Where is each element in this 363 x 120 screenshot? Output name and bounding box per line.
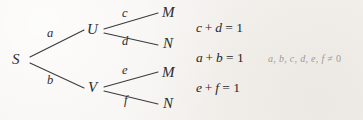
edge-s-u xyxy=(30,30,84,57)
edge-label-f: f xyxy=(124,94,127,107)
equation-a-plus-b-operator: + xyxy=(203,50,216,65)
tree-diagram-figure: S U V M N M N a b c d e f c+d=1 a+b=1 e+… xyxy=(0,0,363,120)
edge-u-n1 xyxy=(104,33,158,45)
edge-label-c: c xyxy=(122,7,128,20)
nonzero-condition-relation: ≠ xyxy=(327,53,333,64)
node-m-upper: M xyxy=(162,5,175,20)
edge-u-m1 xyxy=(104,13,158,29)
equation-a-plus-b-term2: b xyxy=(216,50,223,65)
equation-a-plus-b-equals: = xyxy=(223,50,237,65)
node-n-upper: N xyxy=(163,36,173,51)
edge-v-n2 xyxy=(104,91,158,104)
equation-c-plus-d-equals: = xyxy=(222,20,236,35)
equation-e-plus-f-operator: + xyxy=(202,80,215,95)
edge-label-d: d xyxy=(122,35,128,48)
edge-label-b: b xyxy=(47,74,53,87)
equation-c-plus-d-result: 1 xyxy=(236,20,243,35)
edge-v-m2 xyxy=(104,72,158,87)
node-s: S xyxy=(12,52,20,67)
equation-a-plus-b-result: 1 xyxy=(237,50,244,65)
nonzero-condition-variables: a, b, c, d, e, f xyxy=(268,53,324,64)
edge-label-a: a xyxy=(47,27,53,40)
edge-s-v xyxy=(30,63,84,88)
edge-label-e: e xyxy=(122,64,128,77)
equation-e-plus-f-result: 1 xyxy=(233,80,240,95)
node-m-lower: M xyxy=(162,65,175,80)
equation-a-plus-b-term1: a xyxy=(196,50,203,65)
equation-a-plus-b: a+b=1 xyxy=(196,51,244,65)
nonzero-condition-note: a, b, c, d, e, f ≠ 0 xyxy=(268,54,341,64)
equation-c-plus-d-operator: + xyxy=(202,20,215,35)
equation-e-plus-f-equals: = xyxy=(219,80,233,95)
nonzero-condition-value: 0 xyxy=(336,53,341,64)
node-v: V xyxy=(88,80,97,95)
equation-e-plus-f: e+f=1 xyxy=(196,81,240,95)
node-u: U xyxy=(87,22,98,37)
equation-c-plus-d: c+d=1 xyxy=(196,21,243,35)
node-n-lower: N xyxy=(163,96,173,111)
